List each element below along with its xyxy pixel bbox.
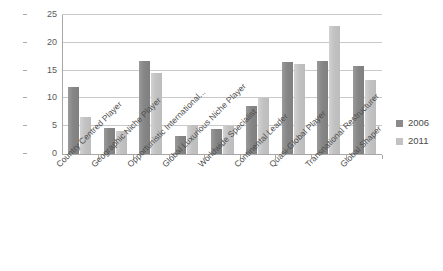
x-axis-category-labels: Country Centred PlayerGeographic Niche P…	[0, 0, 443, 271]
bar-chart: 0510152025 Country Centred PlayerGeograp…	[0, 0, 443, 271]
x-axis-category-label: Geographic Niche Player	[89, 95, 163, 169]
legend-swatch-icon	[396, 120, 403, 127]
chart-legend: 20062011	[396, 114, 429, 150]
legend-item[interactable]: 2006	[396, 114, 429, 132]
legend-item[interactable]: 2011	[396, 132, 429, 150]
legend-swatch-icon	[396, 138, 403, 145]
legend-label: 2011	[408, 136, 428, 146]
legend-label: 2006	[408, 118, 429, 128]
x-axis-category-label: Country Centred Player	[54, 99, 124, 169]
